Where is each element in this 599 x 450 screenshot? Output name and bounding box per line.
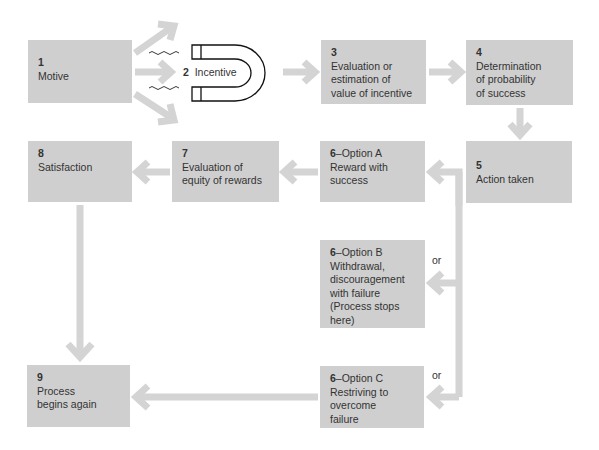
- node-number: 7: [182, 147, 269, 161]
- node-2-incentive: 2 Incentive: [183, 66, 237, 78]
- node-text: Process begins again: [37, 385, 120, 412]
- node-6c-restriving: 6–Option C Restriving to overcome failur…: [320, 366, 424, 428]
- node-5-action: 5 Action taken: [466, 141, 572, 203]
- node-option: –Option A: [336, 147, 382, 159]
- node-text: Evaluation of equity of rewards: [182, 161, 269, 188]
- node-number: 4: [476, 46, 563, 60]
- node-8-satisfaction: 8 Satisfaction: [28, 141, 132, 202]
- node-text: Evaluation or estimation of value of inc…: [331, 60, 416, 101]
- node-6b-withdrawal: 6–Option B Withdrawal, discouragement wi…: [320, 240, 425, 328]
- or-label-c: or: [432, 369, 441, 381]
- node-number: 8: [38, 147, 122, 161]
- node-number: 5: [476, 159, 562, 173]
- node-number: 9: [37, 371, 120, 385]
- node-option: –Option C: [336, 372, 383, 384]
- node-number: 1: [38, 56, 122, 70]
- node-text: Reward with success: [330, 161, 415, 188]
- node-number: 6–Option A: [330, 147, 415, 161]
- node-3-evaluation: 3 Evaluation or estimation of value of i…: [321, 40, 426, 104]
- node-7-equity: 7 Evaluation of equity of rewards: [172, 141, 279, 202]
- node-option: –Option B: [336, 246, 383, 258]
- or-label-b: or: [432, 254, 441, 266]
- node-text: Determination of probability of success: [476, 60, 563, 101]
- node-text: Withdrawal, discouragement with failure …: [330, 260, 415, 328]
- node-9-process-again: 9 Process begins again: [27, 365, 130, 427]
- node-text: Motive: [38, 70, 122, 84]
- node-number: 6–Option C: [330, 372, 414, 386]
- node-1-motive: 1 Motive: [28, 40, 132, 103]
- node-text: Restriving to overcome failure: [330, 386, 414, 427]
- node-6a-reward: 6–Option A Reward with success: [320, 141, 425, 202]
- node-number: 6–Option B: [330, 246, 415, 260]
- node-number: 3: [331, 46, 416, 60]
- node-text: Action taken: [476, 173, 562, 187]
- node-number: 2: [183, 66, 189, 78]
- node-4-probability: 4 Determination of probability of succes…: [466, 40, 573, 105]
- node-text: Incentive: [195, 66, 237, 78]
- node-text: Satisfaction: [38, 161, 122, 175]
